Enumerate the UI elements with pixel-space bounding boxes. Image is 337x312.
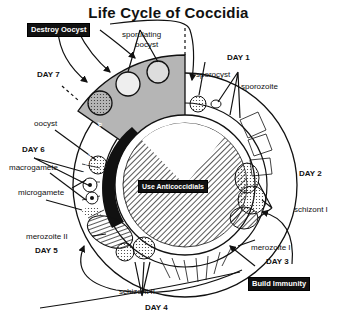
- label-day-4: DAY 4: [145, 304, 168, 312]
- use-anticoccidials-callout: Use Anticoccidials: [138, 180, 208, 193]
- label-day-1: DAY 1: [227, 54, 250, 62]
- label-merozoite-2: merozoite II: [26, 233, 68, 241]
- label-sporulating-oocyst-line2: oocyst: [135, 41, 158, 49]
- label-oocyst: oocyst: [34, 120, 57, 128]
- label-day-3: DAY 3: [266, 258, 289, 266]
- label-day-2: DAY 2: [299, 170, 322, 178]
- label-day-7: DAY 7: [37, 71, 60, 79]
- day-divider: [62, 86, 78, 100]
- build-immunity-callout: Build Immunity: [248, 277, 310, 291]
- label-macrogamete: macrogamete: [9, 164, 58, 172]
- label-sporulating-oocyst: sporulating: [122, 31, 161, 39]
- label-schizont-2: schizont II: [119, 288, 155, 296]
- label-sporozoite: sporozoite: [241, 83, 278, 91]
- label-merozoite-1: merozoite I: [251, 244, 291, 252]
- label-sporocyst: sporocyst: [196, 71, 230, 79]
- diagram-title: Life Cycle of Coccidia: [0, 4, 337, 21]
- label-schizont-1: schizont I: [294, 206, 328, 214]
- destroy-oocyst-callout: Destroy Oocyst: [27, 23, 90, 37]
- label-day-5: DAY 5: [35, 247, 58, 255]
- label-day-6: DAY 6: [22, 146, 45, 154]
- label-microgamete: microgamete: [18, 189, 64, 197]
